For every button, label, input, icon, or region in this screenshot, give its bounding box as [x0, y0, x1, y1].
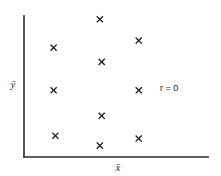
x-marker-icon	[51, 45, 56, 50]
x-axis-label: x̄	[115, 162, 121, 173]
x-marker-icon	[53, 133, 58, 138]
y-axis-label: ȳ	[10, 79, 16, 90]
axes	[23, 15, 209, 158]
x-marker-icon	[97, 143, 102, 148]
x-marker-icon	[97, 17, 102, 22]
x-marker-icon	[99, 113, 104, 118]
x-marker-icon	[136, 136, 141, 141]
x-marker-icon	[136, 38, 141, 43]
x-marker-icon	[99, 59, 104, 64]
correlation-annotation: r = 0	[160, 83, 178, 93]
data-points	[51, 17, 141, 149]
scatter-plot: ȳ x̄ r = 0	[0, 0, 221, 176]
x-marker-icon	[51, 88, 56, 93]
x-marker-icon	[136, 88, 141, 93]
